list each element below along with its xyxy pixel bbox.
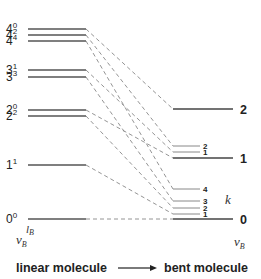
bent-level-label: 1: [240, 152, 247, 166]
arrow-icon: [118, 265, 157, 271]
correlation-line: [86, 29, 173, 109]
l-axis-label: lB: [26, 223, 34, 237]
correlation-line: [86, 35, 173, 146]
correlation-diagram: 404244313320221100 210214321 k lB vB vB …: [0, 0, 261, 279]
k-level-label: 4: [203, 185, 208, 194]
bent-level-label: 2: [240, 103, 247, 117]
linear-level-label: 33: [6, 69, 18, 84]
correlation-line: [86, 41, 173, 189]
bent-levels: 210214321: [173, 103, 247, 227]
linear-level-label: 11: [6, 157, 18, 172]
bent-level-label: 0: [240, 213, 247, 227]
linear-level-label: 44: [6, 33, 18, 48]
linear-level-label: 22: [6, 108, 18, 123]
k-level-label: 1: [203, 148, 208, 157]
correlation-line: [86, 70, 173, 152]
linear-molecule-label: linear molecule: [16, 261, 107, 275]
k-level-label: 1: [203, 210, 208, 219]
correlation-line: [86, 77, 173, 201]
k-label: k: [225, 192, 231, 207]
correlation-line: [86, 165, 173, 214]
correlation-line: [86, 110, 173, 158]
linear-level-label: 00: [6, 211, 18, 226]
correlation-lines: [86, 29, 173, 219]
bent-molecule-label: bent molecule: [164, 261, 248, 275]
v-axis-label-right: vB: [234, 234, 245, 251]
linear-levels: 404244313320221100: [6, 21, 86, 226]
diagram-canvas: 404244313320221100 210214321 k lB vB vB …: [0, 0, 261, 279]
